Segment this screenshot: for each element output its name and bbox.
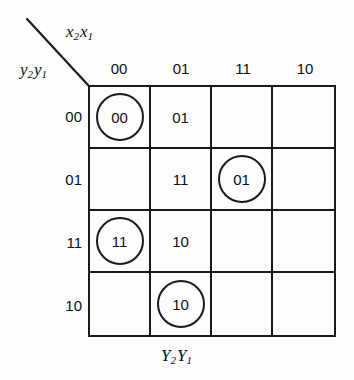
bottom-label-sub1: 2 <box>171 354 178 366</box>
column-header-3: 10 <box>274 58 336 80</box>
kmap-cell-r3c3[interactable] <box>273 273 334 335</box>
cell-value-r1c2: 01 <box>233 172 250 187</box>
column-axis-var2: x <box>80 22 88 41</box>
cell-value-r2c1: 10 <box>172 234 189 249</box>
column-headers: 00 01 11 10 <box>88 58 336 80</box>
bottom-label-sub2: 1 <box>186 354 193 366</box>
kmap-cell-r2c1[interactable]: 10 <box>151 211 212 273</box>
row-header-2: 11 <box>30 211 82 274</box>
column-axis-sub2: 1 <box>88 30 95 42</box>
row-axis-var1: y <box>20 60 28 79</box>
kmap-cell-r2c0[interactable]: 11 <box>90 211 151 273</box>
bottom-label-var1: Y <box>161 346 170 365</box>
cell-value-r2c0: 11 <box>112 234 128 249</box>
kmap-cell-r0c0[interactable]: 00 <box>90 87 151 149</box>
kmap-cell-r1c2[interactable]: 01 <box>212 149 273 211</box>
column-header-0: 00 <box>88 58 150 80</box>
kmap-cell-r2c2[interactable] <box>212 211 273 273</box>
kmap-grid: 00 01 11 01 11 10 <box>88 85 336 337</box>
kmap-cell-r1c3[interactable] <box>273 149 334 211</box>
column-axis-label: x2x1 <box>66 22 94 42</box>
column-header-2: 11 <box>212 58 274 80</box>
row-header-3: 10 <box>30 274 82 337</box>
kmap-cell-r1c0[interactable] <box>90 149 151 211</box>
kmap-cell-r2c3[interactable] <box>273 211 334 273</box>
column-header-1: 01 <box>150 58 212 80</box>
row-header-1: 01 <box>30 148 82 211</box>
row-headers: 00 01 11 10 <box>30 85 82 337</box>
column-axis-sub1: 2 <box>74 30 81 42</box>
kmap-cell-r0c1[interactable]: 01 <box>151 87 212 149</box>
kmap-cell-r0c3[interactable] <box>273 87 334 149</box>
row-axis-sub2: 1 <box>42 68 49 80</box>
cell-value-r0c1: 01 <box>172 110 189 125</box>
output-axis-label: Y2Y1 <box>0 346 354 366</box>
row-header-0: 00 <box>30 85 82 148</box>
kmap-cell-r1c1[interactable]: 11 <box>151 149 212 211</box>
cell-value-r1c1: 11 <box>173 172 189 187</box>
kmap-cell-r0c2[interactable] <box>212 87 273 149</box>
cell-value-r3c1: 10 <box>172 297 189 312</box>
karnaugh-map-figure: x2x1 y2y1 00 01 11 10 00 01 11 10 00 01 … <box>0 0 354 380</box>
row-axis-label: y2y1 <box>20 60 48 80</box>
kmap-cell-r3c1[interactable]: 10 <box>151 273 212 335</box>
row-axis-sub1: 2 <box>28 68 35 80</box>
column-axis-var1: x <box>66 22 74 41</box>
kmap-cell-r3c0[interactable] <box>90 273 151 335</box>
row-axis-var2: y <box>34 60 42 79</box>
kmap-cell-r3c2[interactable] <box>212 273 273 335</box>
cell-value-r0c0: 00 <box>111 110 128 125</box>
